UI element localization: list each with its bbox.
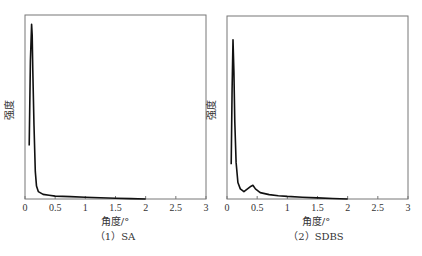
x-tick-label: 0.5 — [49, 202, 62, 213]
x-axis-label: 角度/° — [302, 215, 330, 227]
x-tick-label: 1 — [83, 202, 88, 213]
x-tick-label: 1.5 — [109, 202, 122, 213]
y-axis-label: 强度 — [205, 100, 217, 120]
x-tick-label: 2.5 — [170, 202, 183, 213]
x-tick-label: 1.5 — [311, 202, 324, 213]
panel-caption: （1）SA — [95, 231, 136, 242]
x-tick-label: 2 — [345, 202, 350, 213]
y-axis-label: 强度 — [3, 100, 15, 120]
sdbs-intensity-curve — [231, 40, 348, 199]
chart-panel-sdbs: 00.511.522.53 强度 角度/° （2）SDBS — [205, 16, 411, 242]
x-tick-label: 3 — [406, 202, 411, 213]
x-tick-label: 0 — [23, 202, 28, 213]
x-tick-label: 0 — [225, 202, 230, 213]
plot-frame — [227, 16, 408, 199]
x-axis-label: 角度/° — [101, 215, 129, 227]
x-tick-label: 0.5 — [251, 202, 264, 213]
sa-intensity-curve — [29, 24, 146, 199]
chart-panel-sa: 00.511.522.53 强度 角度/° （1）SA — [3, 15, 209, 242]
panel-caption: （2）SDBS — [288, 231, 344, 242]
x-tick-label: 2.5 — [372, 202, 385, 213]
x-tick-label: 1 — [285, 202, 290, 213]
x-tick-label: 2 — [143, 202, 148, 213]
x-tick-label: 3 — [204, 202, 209, 213]
figure: 00.511.522.53 强度 角度/° （1）SA 00.511.522.5… — [0, 0, 422, 256]
plot-frame — [25, 15, 206, 199]
